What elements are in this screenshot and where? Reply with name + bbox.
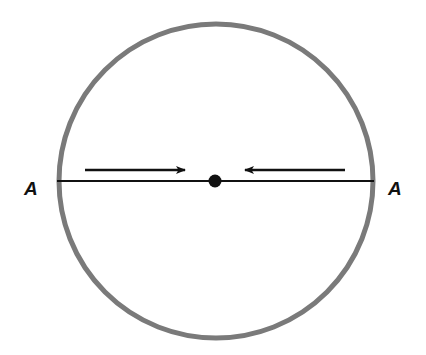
circle-diagram: A A — [0, 0, 426, 355]
center-dot — [209, 175, 222, 188]
label-right-a: A — [387, 178, 402, 199]
label-left-a: A — [23, 178, 38, 199]
